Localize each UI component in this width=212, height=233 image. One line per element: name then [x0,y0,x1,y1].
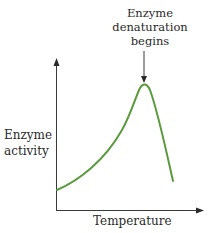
annotation-line-3: begins [112,34,188,48]
y-axis-label-line-2: activity [4,143,52,159]
activity-curve [57,84,173,190]
x-axis-label: Temperature [93,214,172,228]
annotation-line-1: Enzyme [112,6,188,20]
y-axis-label: Enzyme activity [4,127,52,159]
annotation-label: Enzyme denaturation begins [112,6,188,48]
annotation-arrowhead-icon [141,76,147,83]
y-axis-arrowhead-icon [54,58,60,66]
x-axis-arrowhead-icon [196,208,204,214]
y-axis-label-line-1: Enzyme [4,127,52,143]
annotation-line-2: denaturation [112,20,188,34]
